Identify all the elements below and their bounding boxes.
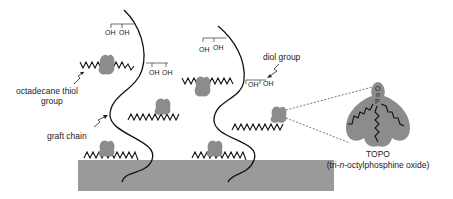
svg-text:O: O — [375, 85, 381, 92]
topo-blob — [99, 140, 115, 156]
topo-molecule: O P — [346, 82, 410, 147]
topo-blob — [155, 98, 171, 114]
topo-blob — [207, 140, 223, 156]
label-graft-chain: graft chain — [47, 131, 87, 141]
svg-text:OH: OH — [149, 69, 160, 76]
label-topo: TOPO — [366, 149, 390, 159]
svg-text:OH: OH — [119, 29, 130, 36]
schematic-svg: OH OH OH OH OH OH OH OH octadecane thiol… — [0, 0, 453, 199]
label-topo-full: (tri-n-octylphosphine oxide) — [327, 160, 430, 170]
svg-text:OH: OH — [105, 29, 116, 36]
octadecane-chain — [232, 124, 283, 130]
arrowhead-icon — [267, 74, 272, 78]
zoom-line-bottom — [286, 118, 350, 143]
label-octadecane-thiol: octadecane thiol — [16, 86, 78, 96]
topo-blob — [271, 106, 287, 122]
diol-group-1: OH OH — [105, 24, 134, 36]
svg-text:OH: OH — [213, 44, 224, 51]
diol-group-2: OH OH — [146, 63, 173, 76]
svg-text:P: P — [375, 98, 380, 105]
diol-group-4: OH OH — [246, 80, 274, 88]
diagram-canvas: OH OH OH OH OH OH OH OH octadecane thiol… — [0, 0, 453, 199]
octadecane-chain — [128, 114, 179, 120]
svg-text:OH: OH — [248, 81, 259, 88]
label-diol-group: diol group — [263, 52, 301, 62]
topo-blob — [195, 76, 211, 96]
substrate — [78, 160, 334, 191]
label-octadecane-group: group — [41, 96, 63, 106]
svg-text:OH: OH — [162, 69, 173, 76]
svg-text:OH: OH — [263, 80, 274, 87]
pointer-arrow-icon — [94, 116, 106, 127]
topo-blob — [99, 55, 115, 75]
svg-text:OH: OH — [199, 46, 210, 53]
pointer-arrow-icon — [270, 64, 279, 76]
diol-group-3: OH OH — [199, 38, 226, 53]
